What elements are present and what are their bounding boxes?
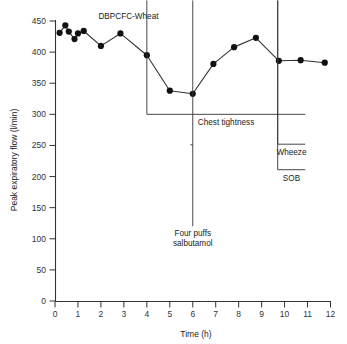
data-point bbox=[81, 28, 87, 34]
data-point bbox=[71, 36, 77, 42]
x-tick-label: 7 bbox=[213, 309, 218, 319]
data-point bbox=[56, 30, 62, 36]
y-tick-label: 450 bbox=[32, 16, 46, 26]
y-tick-label: 0 bbox=[41, 296, 46, 306]
annotation-chest-tightness: Chest tightness bbox=[147, 1, 305, 128]
data-point bbox=[231, 44, 237, 50]
x-tick-label: 1 bbox=[76, 309, 81, 319]
x-tick-label: 9 bbox=[259, 309, 264, 319]
salbutamol-label-line1: Four puffs bbox=[174, 229, 211, 238]
y-axis-ticks: 050100150200250300350400450 bbox=[32, 16, 56, 306]
data-point bbox=[66, 28, 72, 34]
data-point bbox=[298, 57, 304, 63]
y-tick-label: 100 bbox=[32, 234, 46, 244]
x-tick-label: 8 bbox=[236, 309, 241, 319]
data-point bbox=[117, 30, 123, 36]
data-point bbox=[98, 43, 104, 49]
y-axis-title: Peak expiratory flow (l/min) bbox=[9, 109, 19, 212]
peak-flow-chart: 050100150200250300350400450 012345678910… bbox=[0, 0, 347, 344]
chest-tightness-label: Chest tightness bbox=[198, 118, 254, 127]
data-point bbox=[253, 35, 259, 41]
data-point bbox=[210, 61, 216, 67]
x-tick-label: 10 bbox=[280, 309, 290, 319]
salbutamol-arrow bbox=[190, 0, 192, 226]
data-point bbox=[276, 58, 282, 64]
data-point bbox=[167, 88, 173, 94]
x-tick-label: 4 bbox=[144, 309, 149, 319]
y-tick-label: 250 bbox=[32, 140, 46, 150]
y-tick-label: 350 bbox=[32, 78, 46, 88]
y-tick-label: 400 bbox=[32, 47, 46, 57]
y-tick-label: 300 bbox=[32, 109, 46, 119]
peak-flow-line bbox=[60, 25, 325, 93]
x-tick-label: 12 bbox=[326, 309, 336, 319]
x-axis-ticks: 0123456789101112 bbox=[53, 302, 336, 320]
sob-label: SOB bbox=[283, 174, 301, 183]
x-tick-label: 6 bbox=[190, 309, 195, 319]
annotation-dbpcfc-wheat: DBPCFC-Wheat bbox=[98, 12, 159, 21]
wheeze-arrow bbox=[278, 1, 306, 145]
wheeze-label: Wheeze bbox=[276, 148, 306, 157]
x-tick-label: 0 bbox=[53, 309, 58, 319]
peak-flow-markers bbox=[56, 22, 327, 97]
x-axis-title: Time (h) bbox=[180, 329, 211, 339]
chart-canvas: 050100150200250300350400450 012345678910… bbox=[0, 0, 347, 344]
x-tick-label: 11 bbox=[303, 309, 312, 319]
x-tick-label: 2 bbox=[99, 309, 104, 319]
y-tick-label: 150 bbox=[32, 203, 46, 213]
data-point bbox=[322, 60, 328, 66]
data-point bbox=[75, 30, 81, 36]
y-tick-label: 200 bbox=[32, 172, 46, 182]
data-point bbox=[62, 22, 68, 28]
y-tick-label: 50 bbox=[37, 265, 47, 275]
annotation-wheeze: Wheeze bbox=[276, 1, 306, 158]
salbutamol-label-line2: salbutamol bbox=[173, 239, 213, 248]
x-tick-label: 5 bbox=[167, 309, 172, 319]
chest-tightness-arrow bbox=[147, 1, 305, 115]
x-tick-label: 3 bbox=[122, 309, 127, 319]
